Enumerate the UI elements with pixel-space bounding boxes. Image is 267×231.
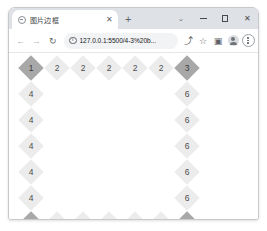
grid-cell bbox=[148, 81, 174, 107]
diamond-grid: 122222346464646467888889 bbox=[18, 55, 200, 220]
grid-cell bbox=[122, 133, 148, 159]
grid-cell bbox=[122, 81, 148, 107]
grid-cell bbox=[96, 159, 122, 185]
grid-cell: 4 bbox=[18, 81, 44, 107]
tab-search-icon[interactable]: ⌄ bbox=[170, 8, 192, 29]
diamond-edge: 8 bbox=[70, 211, 95, 220]
close-tab-icon[interactable]: ✕ bbox=[105, 16, 114, 24]
grid-row: 46 bbox=[18, 107, 200, 133]
diamond-label: 2 bbox=[55, 64, 60, 73]
back-icon[interactable]: ← bbox=[13, 33, 28, 48]
diamond-label: 1 bbox=[29, 64, 34, 73]
diamond-edge: 4 bbox=[18, 107, 43, 132]
grid-cell bbox=[122, 185, 148, 211]
avatar-icon bbox=[228, 35, 239, 46]
diamond-edge: 6 bbox=[174, 159, 199, 184]
grid-cell bbox=[70, 159, 96, 185]
grid-cell bbox=[44, 159, 70, 185]
site-info-icon[interactable] bbox=[69, 37, 77, 45]
grid-cell bbox=[70, 107, 96, 133]
diamond-label: 2 bbox=[107, 64, 112, 73]
diamond-edge: 4 bbox=[18, 133, 43, 158]
browser-toolbar: ← → ↻ 127.0.0.1:5500/4-3%20b... ⤴ ☆ ▣ bbox=[9, 29, 258, 53]
diamond-edge: 8 bbox=[122, 211, 147, 220]
diamond-label: 6 bbox=[185, 142, 190, 151]
three-dot-menu-icon bbox=[242, 34, 255, 47]
grid-cell bbox=[148, 185, 174, 211]
grid-cell: 2 bbox=[122, 55, 148, 81]
grid-cell bbox=[148, 107, 174, 133]
grid-cell bbox=[44, 185, 70, 211]
share-icon[interactable]: ⤴ bbox=[181, 34, 195, 48]
grid-cell: 6 bbox=[174, 185, 200, 211]
minimize-button[interactable] bbox=[192, 8, 214, 29]
diamond-label: 4 bbox=[29, 142, 34, 151]
diamond-corner: 9 bbox=[174, 211, 199, 220]
grid-cell bbox=[96, 185, 122, 211]
grid-cell: 8 bbox=[44, 211, 70, 220]
diamond-edge: 2 bbox=[148, 55, 173, 80]
diamond-label: 4 bbox=[29, 194, 34, 203]
chrome-menu-button[interactable] bbox=[241, 34, 255, 48]
grid-cell: 8 bbox=[148, 211, 174, 220]
grid-cell bbox=[70, 81, 96, 107]
diamond-edge: 4 bbox=[18, 81, 43, 106]
diamond-label: 2 bbox=[133, 64, 138, 73]
reload-icon[interactable]: ↻ bbox=[45, 33, 60, 48]
diamond-corner: 7 bbox=[18, 211, 43, 220]
forward-icon[interactable]: → bbox=[29, 33, 44, 48]
grid-cell bbox=[44, 81, 70, 107]
diamond-edge: 6 bbox=[174, 107, 199, 132]
browser-tab[interactable]: 图片边框 ✕ bbox=[12, 10, 118, 29]
minimize-icon bbox=[200, 18, 207, 19]
grid-cell bbox=[122, 159, 148, 185]
maximize-button[interactable] bbox=[214, 8, 236, 29]
grid-row: 46 bbox=[18, 133, 200, 159]
grid-cell bbox=[70, 133, 96, 159]
grid-row: 7888889 bbox=[18, 211, 200, 220]
close-window-button[interactable]: ✕ bbox=[236, 8, 258, 29]
diamond-label: 4 bbox=[29, 116, 34, 125]
grid-cell bbox=[96, 107, 122, 133]
grid-cell: 6 bbox=[174, 107, 200, 133]
grid-cell: 6 bbox=[174, 133, 200, 159]
grid-cell bbox=[96, 81, 122, 107]
address-bar[interactable]: 127.0.0.1:5500/4-3%20b... bbox=[64, 33, 178, 49]
grid-cell bbox=[44, 107, 70, 133]
grid-cell: 2 bbox=[96, 55, 122, 81]
grid-cell bbox=[148, 159, 174, 185]
side-panel-icon[interactable]: ▣ bbox=[211, 34, 225, 48]
diamond-edge: 6 bbox=[174, 185, 199, 210]
grid-cell: 2 bbox=[148, 55, 174, 81]
grid-cell: 8 bbox=[96, 211, 122, 220]
grid-cell: 4 bbox=[18, 133, 44, 159]
grid-cell: 2 bbox=[70, 55, 96, 81]
grid-row: 46 bbox=[18, 81, 200, 107]
grid-row: 46 bbox=[18, 159, 200, 185]
diamond-edge: 2 bbox=[44, 55, 69, 80]
diamond-label: 6 bbox=[185, 168, 190, 177]
grid-cell: 8 bbox=[70, 211, 96, 220]
diamond-label: 2 bbox=[159, 64, 164, 73]
bookmark-star-icon[interactable]: ☆ bbox=[196, 34, 210, 48]
tab-strip: 图片边框 ✕ + ⌄ ✕ bbox=[9, 8, 258, 29]
diamond-label: 6 bbox=[185, 116, 190, 125]
diamond-edge: 8 bbox=[44, 211, 69, 220]
grid-cell: 1 bbox=[18, 55, 44, 81]
url-text: 127.0.0.1:5500/4-3%20b... bbox=[80, 37, 174, 44]
diamond-label: 6 bbox=[185, 194, 190, 203]
profile-avatar[interactable] bbox=[226, 34, 240, 48]
tab-title: 图片边框 bbox=[30, 15, 101, 25]
diamond-label: 2 bbox=[81, 64, 86, 73]
diamond-corner: 1 bbox=[18, 55, 43, 80]
grid-cell: 8 bbox=[122, 211, 148, 220]
grid-cell bbox=[122, 107, 148, 133]
grid-row: 46 bbox=[18, 185, 200, 211]
diamond-edge: 4 bbox=[18, 159, 43, 184]
diamond-edge: 8 bbox=[148, 211, 173, 220]
grid-cell: 6 bbox=[174, 81, 200, 107]
diamond-edge: 8 bbox=[96, 211, 121, 220]
new-tab-button[interactable]: + bbox=[125, 14, 131, 25]
diamond-label: 4 bbox=[29, 168, 34, 177]
globe-icon bbox=[18, 16, 26, 24]
